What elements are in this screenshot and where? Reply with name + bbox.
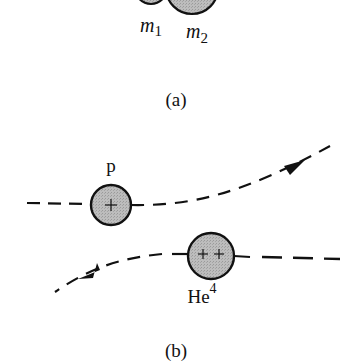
proton-incoming-path: [27, 203, 88, 204]
proton-label: p: [106, 155, 116, 176]
collision-diagram: m1 m2 (a) p He4: [0, 0, 352, 361]
label-m1: m1: [140, 14, 162, 39]
particle-m1: [135, 0, 167, 4]
proton-direction-arrow: [284, 160, 305, 175]
helium-direction-arrow: [78, 263, 100, 279]
helium-incoming-path: [234, 256, 250, 257]
panel-b: p He4 (b): [27, 146, 340, 361]
proton-outgoing-path: [131, 146, 330, 205]
helium-particle: [188, 233, 234, 279]
particle-m2: [166, 0, 218, 14]
panel-b-label: (b): [165, 340, 187, 361]
label-m2: m2: [186, 20, 208, 46]
helium-incoming-dashes: [262, 257, 340, 259]
helium-outgoing-dashes: [55, 254, 162, 292]
panel-a-label: (a): [165, 89, 186, 111]
panel-a: m1 m2 (a): [135, 0, 218, 111]
helium-label: He4: [187, 281, 216, 307]
